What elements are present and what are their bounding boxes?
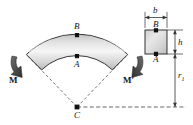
curved-beam-figure: B A C M M′ B A b h r1 [0, 0, 193, 125]
label-a-section: A [153, 55, 159, 64]
cross-section-square [145, 30, 167, 54]
figure-canvas [0, 0, 193, 125]
node-a-arc [75, 54, 79, 58]
label-radius-r1: r1 [178, 71, 185, 82]
label-height-h: h [178, 38, 183, 47]
dim-h-arrowhead-bottom [173, 50, 177, 54]
node-b-arc [75, 33, 79, 37]
label-c-center: C [74, 111, 80, 120]
node-c-center [75, 105, 80, 110]
label-a-arc: A [74, 60, 80, 69]
label-moment-left: M [9, 76, 18, 85]
label-b-arc: B [74, 22, 80, 31]
dim-r1-arrowhead-bottom [173, 103, 177, 107]
label-b-section: B [153, 20, 159, 29]
label-width-b: b [153, 6, 158, 15]
dim-r1-arrowhead-top [173, 54, 177, 58]
label-moment-right: M′ [123, 76, 134, 85]
dim-b-arrowhead-right [163, 16, 167, 20]
label-radius-r1-subscript: 1 [182, 76, 185, 82]
dim-h-arrowhead-top [173, 30, 177, 34]
dim-b-arrowhead-left [145, 16, 149, 20]
